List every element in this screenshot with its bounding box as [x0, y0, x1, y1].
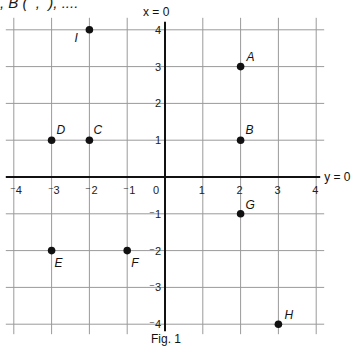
- point-label-h: H: [284, 308, 293, 322]
- x-tick-label: 3: [274, 184, 280, 196]
- y-tick-label: ⁻2: [149, 245, 161, 257]
- x-tick-label: ⁻3: [48, 184, 60, 196]
- figure-caption: Fig. 1: [151, 332, 181, 346]
- point-label-i: I: [74, 31, 78, 45]
- data-point-h: [275, 320, 283, 328]
- x-tick-label: ⁻1: [123, 184, 135, 196]
- data-point-g: [237, 210, 245, 218]
- x-tick-label: ⁻2: [85, 184, 97, 196]
- point-label-a: A: [246, 50, 255, 64]
- y-tick-label: 3: [155, 61, 161, 73]
- point-label-e: E: [55, 256, 64, 270]
- data-point-e: [48, 247, 56, 255]
- y-axis-label: x = 0: [143, 5, 170, 19]
- data-point-a: [237, 63, 245, 71]
- data-point-i: [86, 26, 94, 34]
- x-tick-label: 2: [237, 184, 243, 196]
- x-tick-label: ⁻4: [10, 184, 22, 196]
- y-tick-label: ⁻1: [149, 208, 161, 220]
- x-axis-label: y = 0: [324, 170, 351, 184]
- y-tick-label: ⁻3: [149, 281, 161, 293]
- point-label-d: D: [57, 123, 66, 137]
- point-label-g: G: [246, 198, 255, 212]
- coordinate-grid-chart: y = 0x = 0⁻4⁻3⁻2⁻1012344321⁻1⁻2⁻3⁻4ABCDE…: [0, 0, 352, 348]
- data-point-d: [48, 136, 56, 144]
- point-label-b: B: [246, 123, 254, 137]
- y-tick-label: 1: [155, 134, 161, 146]
- point-label-f: F: [131, 256, 139, 270]
- x-tick-label: 0: [153, 184, 159, 196]
- x-tick-label: 4: [312, 184, 318, 196]
- x-tick-label: 1: [199, 184, 205, 196]
- point-label-c: C: [93, 123, 102, 137]
- data-point-c: [86, 136, 94, 144]
- data-point-f: [123, 247, 131, 255]
- y-tick-label: 4: [155, 24, 161, 36]
- y-tick-label: 2: [155, 97, 161, 109]
- y-tick-label: ⁻4: [149, 318, 161, 330]
- data-point-b: [237, 136, 245, 144]
